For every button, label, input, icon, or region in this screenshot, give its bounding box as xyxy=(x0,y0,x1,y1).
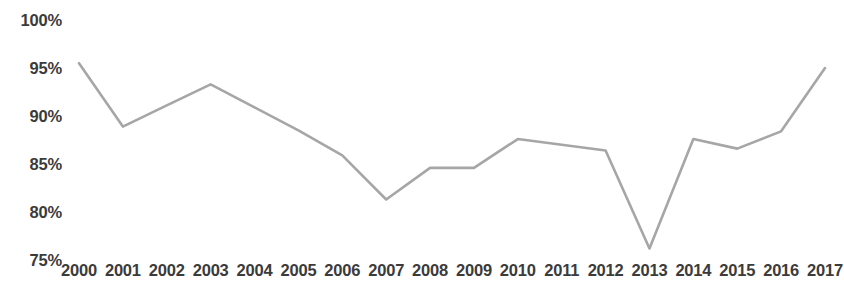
data-series-line xyxy=(79,63,825,248)
x-axis: 2000200120022003200420052006200720082009… xyxy=(0,262,844,291)
series-line-svg xyxy=(0,0,844,291)
x-axis-tick-label: 2017 xyxy=(798,262,844,279)
plot-area xyxy=(0,0,844,291)
line-chart: 100%95%90%85%80%75% 20002001200220032004… xyxy=(0,0,844,291)
